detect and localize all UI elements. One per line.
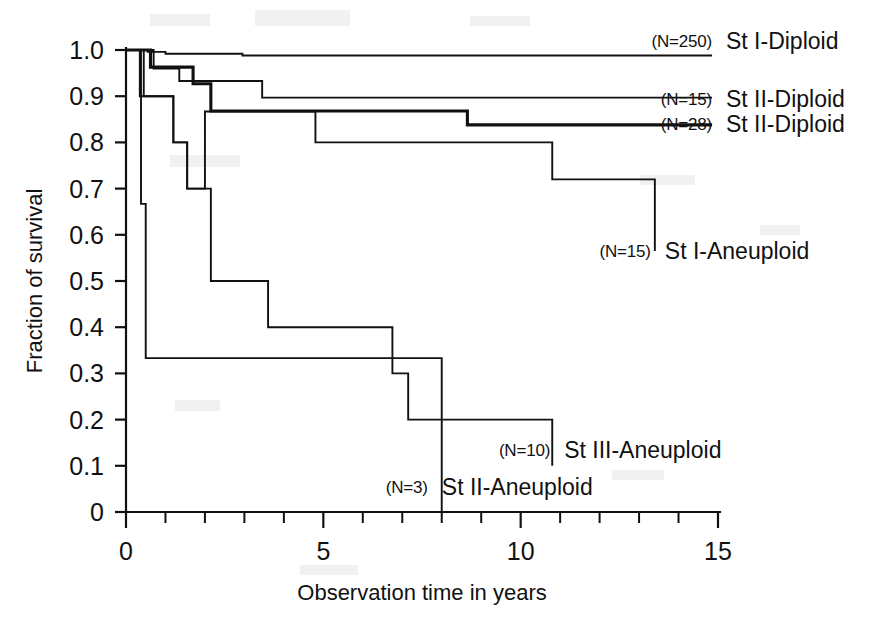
- y-tick-label: 0.5: [69, 267, 104, 295]
- x-axis-title: Observation time in years: [297, 580, 546, 605]
- series-name-label-5: St III-Aneuploid: [564, 437, 721, 463]
- x-tick-label: 10: [507, 537, 535, 565]
- y-tick-label: 0.1: [69, 452, 104, 480]
- y-axis-title: Fraction of survival: [22, 189, 47, 374]
- y-tick-label: 0.8: [69, 128, 104, 156]
- y-tick-label: 0.3: [69, 359, 104, 387]
- x-tick-label: 5: [316, 537, 330, 565]
- series-name-label-3: St II-Diploid: [726, 111, 845, 137]
- survival-chart-canvas: 00.10.20.30.40.50.60.70.80.91.0051015 (N…: [0, 0, 878, 625]
- series-name-label-2: St II-Diploid: [726, 86, 845, 112]
- kaplan-meier-figure: 00.10.20.30.40.50.60.70.80.91.0051015 (N…: [0, 0, 878, 625]
- series-n-label-1: (N=250): [651, 32, 712, 51]
- y-tick-label: 0.6: [69, 221, 104, 249]
- y-tick-label: 0.9: [69, 82, 104, 110]
- y-tick-label: 0.2: [69, 406, 104, 434]
- x-tick-label: 0: [119, 537, 133, 565]
- x-tick-label: 15: [704, 537, 732, 565]
- y-tick-label: 0.4: [69, 313, 104, 341]
- y-tick-label: 0: [90, 498, 104, 526]
- series-n-label-6: (N=3): [386, 478, 428, 497]
- y-tick-label: 1.0: [69, 36, 104, 64]
- series-name-label-4: St I-Aneuploid: [665, 238, 809, 264]
- series-name-label-1: St I-Diploid: [726, 28, 838, 54]
- series-name-label-6: St II-Aneuploid: [442, 474, 593, 500]
- series-n-label-2: (N=15): [661, 90, 712, 109]
- series-n-label-3: (N=28): [661, 115, 712, 134]
- series-n-label-5: (N=10): [499, 441, 550, 460]
- series-n-label-4: (N=15): [600, 242, 651, 261]
- y-tick-label: 0.7: [69, 175, 104, 203]
